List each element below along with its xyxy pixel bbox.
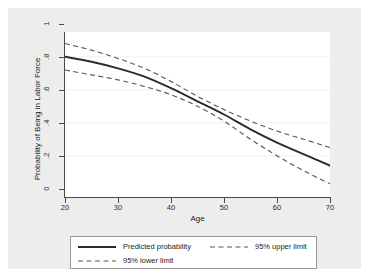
y-axis-line	[64, 32, 65, 198]
legend-label-lower: 95% lower limit	[123, 257, 173, 265]
y-tick-text: 1	[43, 22, 51, 26]
plot-area	[65, 32, 330, 197]
legend-label-upper: 95% upper limit	[255, 243, 307, 251]
x-tick-label-30: 30	[106, 204, 130, 212]
x-axis-title: Age	[65, 214, 330, 223]
dashed-line-key-icon	[77, 257, 117, 265]
y-tick-text: 0	[43, 187, 51, 191]
x-tick-label-60: 60	[265, 204, 289, 212]
legend-entry-upper: 95% upper limit	[209, 243, 307, 251]
solid-line-key-icon	[77, 243, 117, 251]
y-tick-text: .4	[43, 120, 51, 126]
y-tick-label-06: .6	[38, 84, 56, 96]
y-tick-label-04: .4	[38, 117, 56, 129]
y-tick-label-0: 0	[38, 183, 56, 195]
y-tick-text: .8	[43, 54, 51, 60]
dashed-line-key-icon	[209, 243, 249, 251]
x-axis-line	[64, 197, 331, 198]
x-tick-label-50: 50	[212, 204, 236, 212]
legend-label-predicted: Predicted probability	[123, 243, 191, 251]
y-tick-label-08: .8	[38, 51, 56, 63]
ci-lower-line	[65, 70, 330, 184]
chart-legend: Predicted probability 95% upper limit 95…	[70, 236, 317, 269]
chart-screenshot: Probability of Being in Labor Force 1 .8…	[0, 0, 369, 277]
predicted-probability-line	[65, 57, 330, 166]
x-tick-label-40: 40	[159, 204, 183, 212]
ci-upper-line	[65, 44, 330, 148]
x-tick-label-20: 20	[53, 204, 77, 212]
chart-lines-svg	[65, 32, 330, 197]
y-tick-label-02: .2	[38, 150, 56, 162]
y-tick-text: .2	[43, 153, 51, 159]
y-tick-text: .6	[43, 87, 51, 93]
y-tick-mark	[59, 24, 64, 25]
x-tick-label-70: 70	[318, 204, 342, 212]
graph-region: Probability of Being in Labor Force 1 .8…	[8, 8, 361, 269]
legend-entry-predicted: Predicted probability	[77, 243, 191, 251]
legend-row-2: 95% lower limit	[77, 254, 185, 268]
legend-entry-lower: 95% lower limit	[77, 257, 173, 265]
y-tick-label-1: 1	[38, 18, 56, 30]
legend-row-1: Predicted probability 95% upper limit	[77, 240, 319, 254]
